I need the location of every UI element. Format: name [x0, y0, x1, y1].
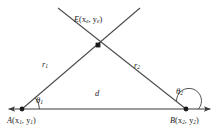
- segment-d-name: d: [95, 89, 99, 98]
- point-e-paren-close: ): [99, 15, 102, 24]
- point-b-paren-close: ): [196, 116, 199, 125]
- point-e-mid: , y: [89, 15, 98, 24]
- diagram-canvas: [0, 0, 216, 130]
- point-a-paren-close: ): [33, 116, 36, 125]
- segment-label-d: d: [95, 90, 99, 98]
- angle-label-theta1: θ1: [36, 96, 43, 106]
- angle-theta2-sub: 2: [180, 90, 183, 96]
- vertex-dot-a: [20, 107, 25, 112]
- vertex-dot-e: [96, 43, 101, 48]
- point-label-b: B(x2, y2): [170, 117, 199, 126]
- segment-r1-sub: 1: [45, 63, 48, 69]
- angle-label-theta2: θ2: [176, 87, 183, 97]
- point-label-e: E(xe, ye): [74, 16, 102, 25]
- point-label-a: A(x1, y1): [7, 117, 36, 126]
- angle-theta1-sub: 1: [40, 99, 43, 105]
- vertex-dot-b: [184, 107, 189, 112]
- segment-label-r2: r2: [134, 62, 140, 71]
- segment-label-r1: r1: [42, 61, 48, 70]
- segment-r2-sub: 2: [137, 64, 140, 70]
- figure-root: E(xe, ye) A(x1, y1) B(x2, y2) r1 r2 d θ1…: [0, 0, 216, 130]
